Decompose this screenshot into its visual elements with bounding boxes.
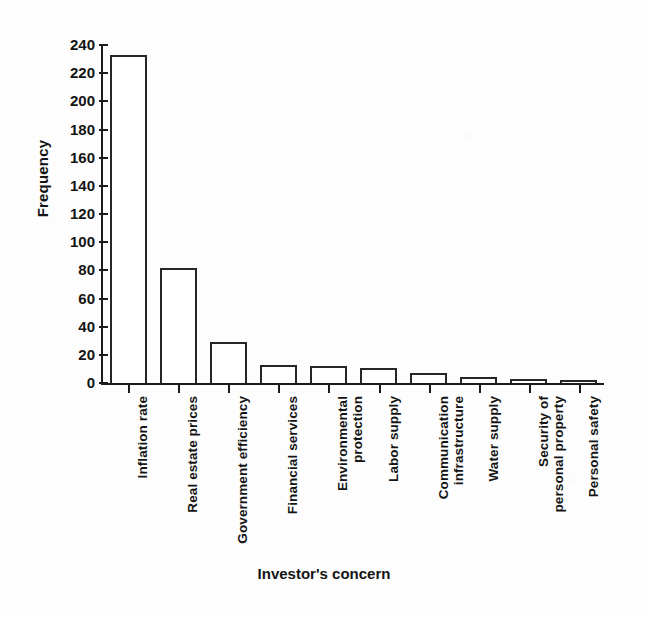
bar <box>410 373 447 383</box>
y-axis-tick: 220 <box>40 66 108 80</box>
y-axis-tick-label: 100 <box>70 235 95 249</box>
y-axis-tick-label: 220 <box>70 66 95 80</box>
y-axis-tick: 60 <box>40 292 108 306</box>
bar <box>110 55 147 383</box>
y-axis-tick-label: 160 <box>70 151 95 165</box>
y-axis-tick: 80 <box>40 263 108 277</box>
y-axis-tick-label: 60 <box>78 292 95 306</box>
y-axis-tick: 120 <box>40 207 108 221</box>
x-axis-title: Investor's concern <box>0 565 648 582</box>
x-axis-tick-mark <box>228 385 230 393</box>
x-axis-tick-mark <box>429 385 431 393</box>
x-axis-tick-mark <box>579 385 581 393</box>
y-axis-tick-label: 140 <box>70 179 95 193</box>
y-axis-tick: 0 <box>40 376 108 390</box>
x-axis-tick-mark <box>128 385 130 393</box>
y-axis-tick: 160 <box>40 151 108 165</box>
x-axis-tick-mark <box>178 385 180 393</box>
y-axis-tick-label: 200 <box>70 94 95 108</box>
y-axis-tick-label: 240 <box>70 38 95 52</box>
bar <box>360 368 397 383</box>
y-axis-tick-label: 80 <box>78 263 95 277</box>
bar <box>310 366 347 383</box>
bar-series <box>103 45 604 383</box>
x-axis-tick-mark <box>379 385 381 393</box>
y-axis-tick-label: 40 <box>78 320 95 334</box>
bar <box>510 379 547 383</box>
y-axis-tick: 100 <box>40 235 108 249</box>
bar <box>460 377 497 383</box>
y-axis-tick-label: 180 <box>70 123 95 137</box>
y-axis-tick: 40 <box>40 320 108 334</box>
y-axis-tick-label: 120 <box>70 207 95 221</box>
category-label: Personal safety <box>586 396 648 546</box>
y-axis-tick: 200 <box>40 94 108 108</box>
x-axis-tick-mark <box>278 385 280 393</box>
x-axis-tick-mark <box>328 385 330 393</box>
y-axis-tick-label: 20 <box>78 348 95 362</box>
bar <box>210 342 247 383</box>
y-axis-tick: 20 <box>40 348 108 362</box>
bar-chart-figure: Frequency 240220200180160140120100806040… <box>0 0 648 617</box>
x-axis-tick-mark <box>479 385 481 393</box>
bar <box>260 365 297 383</box>
y-axis-tick: 140 <box>40 179 108 193</box>
bar <box>160 268 197 383</box>
x-axis-tick-mark <box>529 385 531 393</box>
y-axis-tick-label: 0 <box>87 376 95 390</box>
bar <box>560 380 597 383</box>
y-axis-tick: 180 <box>40 123 108 137</box>
y-axis-tick: 240 <box>40 38 108 52</box>
